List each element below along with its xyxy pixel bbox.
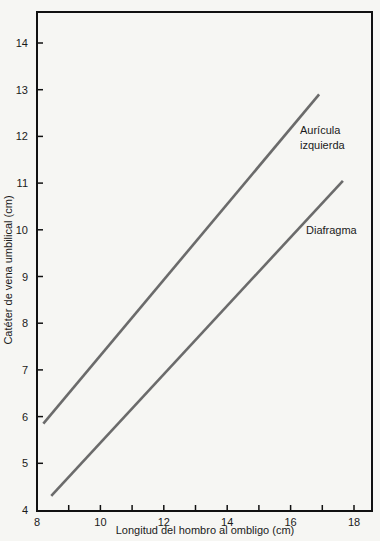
y-axis-title: Catéter de vena umbilical (cm) xyxy=(2,195,14,344)
x-tick-label: 10 xyxy=(94,516,106,528)
y-tick-label: 6 xyxy=(22,411,28,423)
y-tick-label: 11 xyxy=(17,177,28,189)
y-tick-label: 10 xyxy=(16,224,28,236)
y-tick-label: 14 xyxy=(16,37,28,49)
y-tick-label: 13 xyxy=(16,84,28,96)
series-label: Diafragma xyxy=(306,224,358,236)
series-line-0 xyxy=(43,94,319,423)
x-tick-label: 8 xyxy=(34,516,40,528)
x-tick-label: 18 xyxy=(348,516,360,528)
series-label: Aurícula xyxy=(300,124,341,136)
series-label: izquierda xyxy=(300,139,346,151)
y-tick-label: 5 xyxy=(22,457,28,469)
y-axis-ticks: 4567891011121314 xyxy=(16,37,43,516)
chart: 4567891011121314 81012141618 Aurículaizq… xyxy=(0,0,380,541)
plot-frame xyxy=(37,12,372,511)
x-axis-title: Longitud del hombro al ombligo (cm) xyxy=(116,524,295,536)
y-tick-label: 12 xyxy=(16,130,28,142)
y-tick-label: 7 xyxy=(22,364,28,376)
series-line-1 xyxy=(51,181,343,496)
series-lines xyxy=(43,94,343,496)
y-tick-label: 9 xyxy=(22,271,28,283)
y-tick-label: 4 xyxy=(22,504,28,516)
y-tick-label: 8 xyxy=(22,317,28,329)
